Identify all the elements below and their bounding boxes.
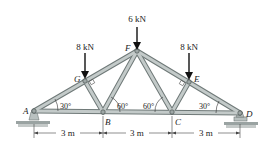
joint-label-b: B (105, 117, 111, 127)
joint-label-e: E (193, 74, 200, 84)
dimension-label-bc: 3 m (130, 128, 144, 138)
dimension-label-ab: 3 m (61, 128, 75, 138)
load-label-e: 8 kN (180, 42, 198, 52)
load-label-f: 6 kN (128, 14, 146, 24)
joint-label-d: D (245, 109, 253, 119)
joint-label-c: C (175, 117, 182, 127)
angle-label-d: 30° (199, 102, 210, 111)
angle-label-b: 60° (117, 102, 128, 111)
joint-label-a: A (22, 106, 29, 116)
dimension-label-cd: 3 m (199, 128, 213, 138)
angle-label-a: 30° (60, 102, 71, 111)
right-angle-marks (89, 79, 184, 85)
joint-label-f: F (124, 43, 131, 53)
joint-label-g: G (74, 74, 81, 84)
pin-support-a (16, 112, 50, 127)
angle-label-c: 60° (143, 102, 154, 111)
load-label-g: 8 kN (76, 42, 94, 52)
truss-diagram: 6 kN 8 kN 8 kN A B C D E F G 30° 60° 60°… (0, 0, 269, 153)
